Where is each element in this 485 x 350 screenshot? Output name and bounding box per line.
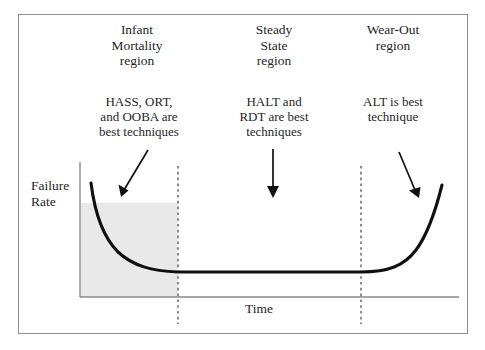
bathtub-curve-figure: Infant Mortality region Steady State reg… [0,0,485,350]
region-heading-infant: Infant Mortality region [82,22,192,69]
technique-note-wearout: ALT is best technique [338,94,448,124]
technique-note-steady: HALT and RDT are best techniques [216,94,332,139]
infant-mortality-shaded-region [81,203,178,297]
region-heading-wearout: Wear-Out region [336,22,450,53]
callout-arrow-steady [267,149,279,198]
y-axis-label: Failure Rate [31,178,69,210]
x-axis-label: Time [224,301,294,317]
region-heading-steady: Steady State region [220,22,328,69]
technique-note-infant: HASS, ORT, and OOBA are best techniques [80,94,198,139]
callout-arrow-wearout [399,152,421,198]
callout-arrow-infant [119,150,149,197]
